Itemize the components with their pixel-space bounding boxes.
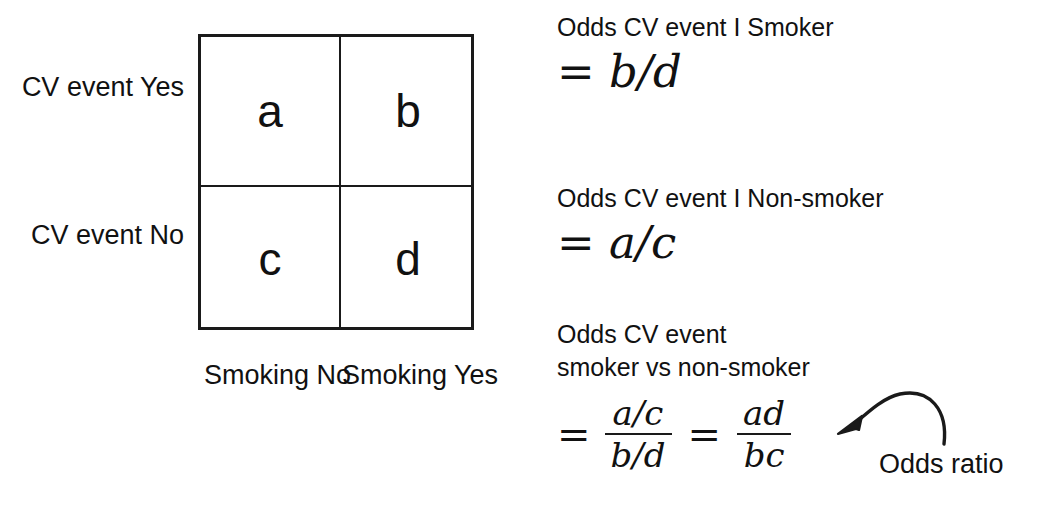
formula-block-smoker: Odds CV event I Smoker = b/d	[557, 11, 834, 95]
formula-block-non-smoker: Odds CV event I Non-smoker = a/c	[557, 182, 884, 266]
fraction-ad-over-bc: ad bc	[737, 393, 791, 475]
table-cell-a: a	[201, 37, 339, 185]
column-label-smoking-yes: Smoking Yes	[342, 358, 498, 393]
formula-equation-smoker: = b/d	[557, 48, 834, 95]
fraction-numerator-ac: a/c	[607, 393, 670, 433]
formula-equation-non-smoker: = a/c	[557, 219, 884, 266]
table-cell-d: d	[339, 185, 477, 333]
equals-sign-first: =	[557, 414, 591, 454]
formula-panel: Odds CV event I Smoker = b/d Odds CV eve…	[540, 0, 1058, 511]
curved-arrow-icon	[826, 380, 966, 452]
table-cell-c: c	[201, 185, 339, 333]
formula-expression-odds-ratio: = a/c b/d = ad bc	[557, 393, 810, 475]
fraction-denominator-bd: b/d	[605, 435, 672, 475]
column-label-smoking-no: Smoking No	[204, 358, 351, 393]
row-label-cv-event-no: CV event No	[12, 218, 184, 253]
formula-caption-odds-ratio: Odds CV event smoker vs non-smoker	[557, 318, 810, 383]
odds-ratio-label: Odds ratio	[879, 448, 1004, 480]
fraction-numerator-ad: ad	[737, 393, 791, 433]
fraction-denominator-bc: bc	[738, 435, 791, 475]
equals-sign-second: =	[688, 414, 722, 454]
table-cell-b: b	[339, 37, 477, 185]
formula-caption-smoker: Odds CV event I Smoker	[557, 11, 834, 44]
row-label-cv-event-yes: CV event Yes	[12, 70, 184, 105]
contingency-table-panel: CV event Yes CV event No a b c d Smoking…	[0, 0, 540, 511]
formula-block-odds-ratio: Odds CV event smoker vs non-smoker = a/c…	[557, 318, 810, 475]
contingency-table-grid: a b c d	[198, 34, 474, 330]
formula-caption-non-smoker: Odds CV event I Non-smoker	[557, 182, 884, 215]
fraction-ac-over-bd: a/c b/d	[605, 393, 672, 475]
